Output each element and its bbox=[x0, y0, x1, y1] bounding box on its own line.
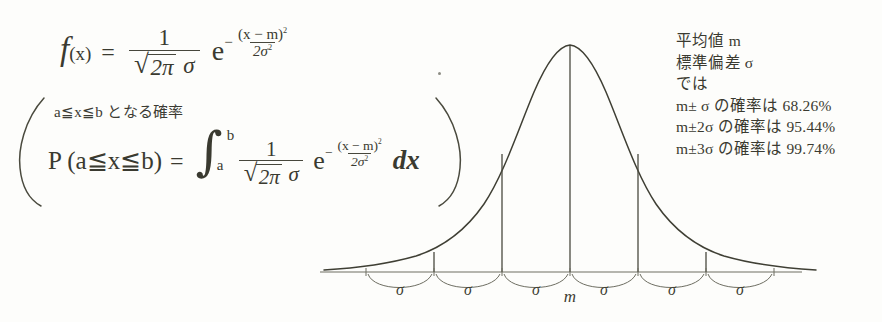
integral-group: ∫ba bbox=[196, 128, 235, 174]
function-name-f: f bbox=[60, 31, 69, 67]
normal-distribution-curve: σ σ σ σ σ σ m bbox=[318, 18, 818, 318]
sigma-label-6: σ bbox=[736, 281, 745, 298]
mean-label-m: m bbox=[564, 287, 576, 306]
exponent-fraction: (x − m)22σ2 bbox=[235, 27, 291, 61]
figure-page: f(x)=1√2πσe−(x − m)22σ2 a≦x≦b となる確率 P (a… bbox=[0, 0, 882, 322]
normalization-fraction-2: 1√2πσ bbox=[239, 138, 303, 189]
sigma-label-5: σ bbox=[668, 281, 677, 298]
normalization-fraction: 1√2πσ bbox=[129, 26, 200, 82]
sqrt-group-2: √2π bbox=[244, 161, 283, 189]
sqrt-group: √2π bbox=[134, 51, 176, 82]
sigma-symbol-2: σ bbox=[288, 162, 298, 186]
integral-lower-limit: a bbox=[217, 158, 235, 174]
scan-speck-artifact bbox=[438, 72, 441, 75]
exponent-numerator-text: (x − m) bbox=[238, 26, 283, 42]
integral-limits: ba bbox=[217, 128, 235, 174]
fraction-denominator: √2πσ bbox=[129, 50, 200, 82]
fraction-numerator: 1 bbox=[154, 26, 176, 50]
exponent-denominator: 2σ2 bbox=[250, 42, 276, 60]
exponent-denominator-text: 2σ bbox=[253, 43, 268, 59]
sigma-label-2: σ bbox=[464, 281, 473, 298]
sigma-label-4: σ bbox=[600, 281, 609, 298]
left-parenthesis bbox=[14, 96, 48, 208]
fraction-denominator-2: √2πσ bbox=[239, 160, 303, 189]
sigma-symbol: σ bbox=[183, 53, 194, 78]
exponent-group: −(x − m)22σ2 bbox=[224, 34, 290, 50]
exponent-minus: − bbox=[224, 34, 232, 50]
sqrt-radicand: 2π bbox=[148, 54, 177, 81]
sigma-label-1: σ bbox=[396, 281, 405, 298]
integral-upper-limit: b bbox=[227, 128, 235, 144]
sigma-label-3: σ bbox=[532, 281, 541, 298]
sqrt-radicand-2: 2π bbox=[256, 164, 282, 189]
exponential-base: e bbox=[212, 35, 224, 66]
exponent-numerator-power: 2 bbox=[283, 26, 287, 35]
exponent-numerator: (x − m)2 bbox=[235, 27, 291, 43]
equals-sign-2: = bbox=[170, 148, 184, 174]
exponent-denominator-power: 2 bbox=[268, 43, 272, 52]
pdf-formula: f(x)=1√2πσe−(x − m)22σ2 bbox=[60, 26, 290, 82]
equals-sign: = bbox=[101, 39, 115, 65]
probability-expression: P (a≦x≦b) bbox=[48, 147, 162, 174]
condition-label: a≦x≦b となる確率 bbox=[54, 100, 184, 121]
fraction-numerator-2: 1 bbox=[261, 138, 281, 160]
function-argument: (x) bbox=[69, 43, 91, 64]
radical-sign-2: √ bbox=[244, 161, 258, 189]
radical-sign: √ bbox=[134, 51, 149, 82]
